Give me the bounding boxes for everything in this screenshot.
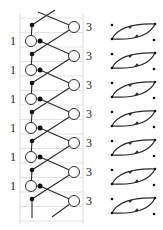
corner-dot	[111, 111, 114, 114]
black-vertex-dot	[38, 68, 43, 73]
lens-end-dot	[154, 110, 157, 113]
left-label-1: 1	[10, 121, 16, 135]
corner-dot	[111, 198, 114, 201]
right-circle-node	[69, 80, 80, 91]
right-circle-node	[69, 51, 80, 62]
left-circle-node	[26, 152, 37, 163]
corner-dot	[111, 169, 114, 172]
lens-cycle	[111, 52, 157, 71]
small-vertex-dot	[30, 23, 35, 28]
corner-dot	[111, 82, 114, 85]
lens-end-dot	[111, 125, 114, 128]
black-vertex-dot	[38, 155, 43, 160]
lens-end-dot	[154, 81, 157, 84]
diagram-canvas: 3131313131313	[0, 0, 163, 230]
corner-dot	[153, 155, 156, 158]
left-label-1: 1	[10, 63, 16, 77]
left-braid-diagram: 3131313131313	[10, 10, 92, 218]
left-circle-node	[26, 123, 37, 134]
lens-cycle	[111, 197, 157, 216]
corner-dot	[111, 24, 114, 27]
lens-end-dot	[111, 154, 114, 157]
lens-cycle	[111, 23, 157, 42]
lens-end-dot	[154, 139, 157, 142]
corner-dot	[153, 97, 156, 100]
lens-cycle	[111, 139, 157, 158]
right-label-3: 3	[86, 78, 92, 92]
small-vertex-dot	[30, 110, 35, 115]
black-vertex-dot	[38, 184, 43, 189]
right-label-3: 3	[86, 136, 92, 150]
lens-end-dot	[111, 183, 114, 186]
lens-end-dot	[111, 67, 114, 70]
lens-end-dot	[111, 38, 114, 41]
right-circle-node	[69, 167, 80, 178]
black-vertex-dot	[38, 39, 43, 44]
corner-dot	[111, 53, 114, 56]
left-circle-node	[26, 181, 37, 192]
corner-dot	[111, 140, 114, 143]
left-label-1: 1	[10, 150, 16, 164]
corner-dot	[153, 184, 156, 187]
right-label-3: 3	[86, 20, 92, 34]
small-vertex-dot	[30, 197, 35, 202]
black-vertex-dot	[38, 97, 43, 102]
corner-dot	[153, 39, 156, 42]
left-label-1: 1	[10, 179, 16, 193]
lens-end-dot	[154, 197, 157, 200]
lens-end-dot	[111, 212, 114, 215]
right-label-3: 3	[86, 107, 92, 121]
right-circle-node	[69, 196, 80, 207]
small-vertex-dot	[30, 81, 35, 86]
left-circle-node	[26, 36, 37, 47]
lens-end-dot	[111, 96, 114, 99]
small-vertex-dot	[30, 168, 35, 173]
lens-cycle	[111, 81, 157, 100]
right-label-3: 3	[86, 49, 92, 63]
corner-dot	[153, 213, 156, 216]
lens-end-dot	[154, 52, 157, 55]
left-label-1: 1	[10, 92, 16, 106]
corner-dot	[153, 68, 156, 71]
small-vertex-dot	[30, 139, 35, 144]
lens-end-dot	[154, 23, 157, 26]
right-label-3: 3	[86, 165, 92, 179]
left-circle-node	[26, 65, 37, 76]
small-vertex-dot	[30, 52, 35, 57]
right-circle-node	[69, 22, 80, 33]
lens-cycle	[111, 110, 157, 129]
right-circle-node	[69, 138, 80, 149]
lens-cycle	[111, 168, 157, 187]
lens-end-dot	[154, 168, 157, 171]
right-lens-diagram	[111, 23, 157, 216]
left-label-1: 1	[10, 34, 16, 48]
corner-dot	[153, 126, 156, 129]
right-label-3: 3	[86, 194, 92, 208]
black-vertex-dot	[38, 126, 43, 131]
right-circle-node	[69, 109, 80, 120]
left-circle-node	[26, 94, 37, 105]
